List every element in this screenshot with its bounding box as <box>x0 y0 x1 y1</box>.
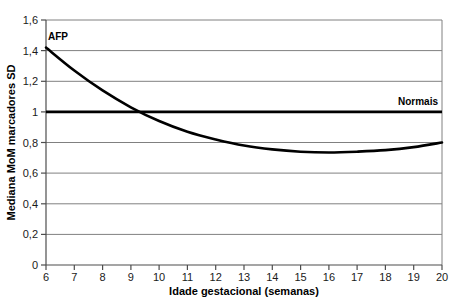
x-tick-label: 8 <box>100 271 106 283</box>
y-tick-label: 0,2 <box>23 228 38 240</box>
y-tick-label: 0 <box>32 259 38 271</box>
x-axis-ticks <box>46 265 442 270</box>
y-tick-label: 1,4 <box>23 45 38 57</box>
x-tick-label: 11 <box>182 271 193 283</box>
x-axis-tick-labels: 6 7 8 9 10 11 12 13 14 15 16 17 18 19 20 <box>43 271 448 283</box>
x-tick-label: 12 <box>210 271 222 283</box>
annotation-normais: Normais <box>398 96 438 107</box>
x-axis-title: Idade gestacional (semanas) <box>169 285 319 297</box>
x-tick-label: 20 <box>436 271 448 283</box>
y-tick-label: 1,6 <box>23 14 38 26</box>
y-tick-label: 0,8 <box>23 137 38 149</box>
x-tick-label: 6 <box>43 271 49 283</box>
y-axis-ticks <box>41 20 46 265</box>
y-axis-title: Mediana MoM marcadores SD <box>5 65 17 221</box>
gestational-age-mom-chart: 1,6 1,4 1,2 1 0,8 0,6 0,4 0,2 0 <box>0 0 463 303</box>
annotation-afp: AFP <box>48 31 68 42</box>
x-tick-label: 19 <box>408 271 420 283</box>
y-axis-tick-labels: 1,6 1,4 1,2 1 0,8 0,6 0,4 0,2 0 <box>23 14 38 271</box>
x-tick-label: 14 <box>266 271 278 283</box>
x-tick-label: 15 <box>294 271 306 283</box>
chart-figure: 1,6 1,4 1,2 1 0,8 0,6 0,4 0,2 0 <box>0 0 463 303</box>
x-tick-label: 16 <box>323 271 335 283</box>
x-tick-label: 9 <box>128 271 134 283</box>
y-tick-label: 0,6 <box>23 167 38 179</box>
x-tick-label: 13 <box>238 271 250 283</box>
y-tick-label: 1 <box>32 106 38 118</box>
x-tick-label: 10 <box>153 271 165 283</box>
x-tick-label: 18 <box>379 271 391 283</box>
x-tick-label: 17 <box>351 271 363 283</box>
y-tick-label: 0,4 <box>23 198 38 210</box>
y-tick-label: 1,2 <box>23 75 38 87</box>
x-tick-label: 7 <box>71 271 77 283</box>
